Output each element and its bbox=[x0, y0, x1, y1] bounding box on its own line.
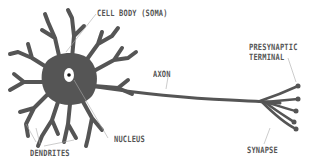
label-axon: AXON bbox=[153, 69, 171, 79]
label-presynaptic-terminal-line1: PRESYNAPTIC bbox=[249, 42, 298, 52]
label-synapse: SYNAPSE bbox=[247, 145, 278, 155]
label-cell-body: CELL BODY (SOMA) bbox=[97, 8, 168, 18]
label-nucleus: NUCLEUS bbox=[114, 134, 145, 144]
label-presynaptic-terminal-line2: TERMINAL bbox=[249, 52, 284, 62]
axon bbox=[90, 86, 280, 103]
synaptic-bulbs bbox=[292, 84, 301, 132]
neuron-diagram bbox=[0, 0, 321, 164]
nucleolus bbox=[67, 73, 71, 77]
label-dendrites: DENDRITES bbox=[30, 148, 70, 158]
